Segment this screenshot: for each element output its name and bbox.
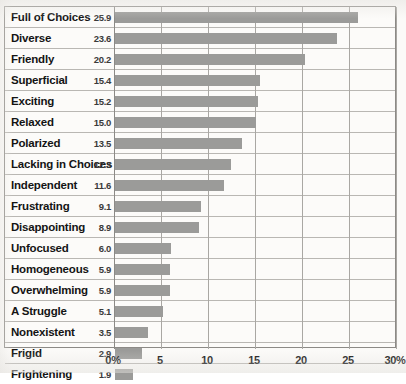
value-label: 5.9 — [5, 280, 111, 301]
bar — [115, 222, 199, 233]
x-tick-label: 5 — [157, 354, 163, 366]
value-label: 5.1 — [5, 301, 111, 322]
value-label: 25.9 — [5, 7, 111, 28]
bar — [115, 12, 358, 23]
bar — [115, 327, 148, 338]
x-axis: 0%51015202530% — [0, 348, 406, 373]
bar — [115, 243, 171, 254]
value-label: 6.0 — [5, 238, 111, 259]
value-label: 15.2 — [5, 91, 111, 112]
bar — [115, 180, 224, 191]
value-label: 9.1 — [5, 196, 111, 217]
x-tick-label: 15 — [248, 354, 260, 366]
bar — [115, 96, 258, 107]
chart-table-frame: Full of Choices25.9Diverse23.6Friendly20… — [4, 6, 396, 348]
bar — [115, 54, 305, 65]
x-tick-label: 30% — [384, 354, 405, 366]
value-label: 15.4 — [5, 70, 111, 91]
bar — [115, 138, 242, 149]
bar — [115, 159, 231, 170]
value-label: 11.6 — [5, 175, 111, 196]
bar — [115, 33, 337, 44]
value-label: 8.9 — [5, 217, 111, 238]
x-tick-label: 25 — [342, 354, 354, 366]
value-label: 15.0 — [5, 112, 111, 133]
gridline — [396, 7, 397, 349]
value-label: 23.6 — [5, 28, 111, 49]
bar — [115, 201, 201, 212]
value-label: 20.2 — [5, 49, 111, 70]
bar — [115, 306, 163, 317]
x-tick-label: 10 — [201, 354, 213, 366]
bar — [115, 264, 170, 275]
value-label: 3.5 — [5, 322, 111, 343]
value-label: 5.9 — [5, 259, 111, 280]
value-label: 13.5 — [5, 133, 111, 154]
plot-area — [114, 7, 395, 349]
value-label: 12.3 — [5, 154, 111, 175]
bar — [115, 75, 260, 86]
bar — [115, 117, 256, 128]
gridline — [349, 7, 350, 349]
bar — [115, 285, 170, 296]
x-tick-label: 20 — [295, 354, 307, 366]
x-tick-label: 0% — [105, 354, 120, 366]
